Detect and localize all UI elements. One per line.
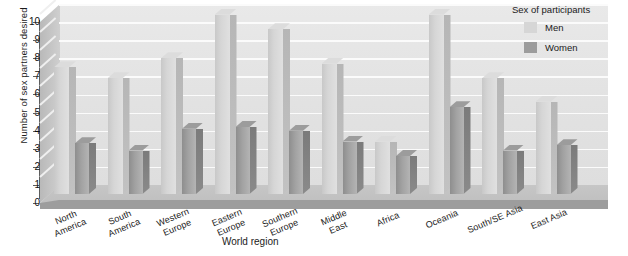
bar-men-7 xyxy=(429,15,444,194)
bar-group xyxy=(375,193,414,194)
y-tick-label-8: 8 xyxy=(16,53,40,63)
bar-side-face xyxy=(250,127,257,194)
bar-face xyxy=(75,143,89,194)
bar-face xyxy=(450,107,464,194)
bar-face xyxy=(503,151,517,194)
bar-side-face xyxy=(571,145,578,194)
bar-women-2 xyxy=(182,129,196,194)
y-tick-label-5: 5 xyxy=(16,108,40,118)
legend-label-women: Women xyxy=(545,42,578,53)
bar-group xyxy=(161,193,200,194)
bar-side-face xyxy=(410,156,417,194)
bar-face xyxy=(54,67,69,194)
legend: Sex of participants MenWomen xyxy=(512,4,626,62)
bar-men-2 xyxy=(161,58,176,194)
bar-face xyxy=(129,151,143,194)
bar-face xyxy=(215,15,230,194)
bar-face xyxy=(289,131,303,194)
bar-face xyxy=(557,145,571,194)
bar-group xyxy=(536,193,575,194)
y-tick-label-10: 10 xyxy=(16,17,40,27)
bar-face xyxy=(322,64,337,194)
bar-group xyxy=(54,193,93,194)
bar-face xyxy=(343,142,357,194)
bar-side-face xyxy=(517,151,524,194)
bar-face xyxy=(268,29,283,194)
legend-item-women: Women xyxy=(512,42,626,53)
bar-men-5 xyxy=(322,64,337,194)
bar-women-8 xyxy=(503,151,517,194)
bar-side-face xyxy=(143,151,150,194)
bar-face xyxy=(536,102,551,194)
bar-face xyxy=(396,156,410,194)
bar-group xyxy=(429,193,468,194)
bar-side-face xyxy=(89,143,96,194)
bar-side-face xyxy=(464,107,471,194)
legend-item-men: Men xyxy=(512,22,626,33)
bar-women-5 xyxy=(343,142,357,194)
y-tick-label-2: 2 xyxy=(16,162,40,172)
bar-chart: Number of sex partners desired 012345678… xyxy=(0,0,628,256)
legend-swatch-women xyxy=(524,42,537,53)
bar-men-4 xyxy=(268,29,283,194)
bar-group xyxy=(108,193,147,194)
y-axis-ticks: 012345678910 xyxy=(0,0,40,256)
legend-items: MenWomen xyxy=(512,22,626,53)
bar-side-face xyxy=(357,142,364,194)
bar-women-0 xyxy=(75,143,89,194)
bar-face xyxy=(161,58,176,194)
bar-men-1 xyxy=(108,78,123,194)
bar-group xyxy=(215,193,254,194)
x-axis-title: World region xyxy=(222,236,279,247)
bar-women-9 xyxy=(557,145,571,194)
bar-group xyxy=(268,193,307,194)
bar-women-7 xyxy=(450,107,464,194)
bar-women-4 xyxy=(289,131,303,194)
bar-face xyxy=(182,129,196,194)
bar-side-face xyxy=(303,131,310,194)
legend-title: Sex of participants xyxy=(512,4,626,15)
bar-women-1 xyxy=(129,151,143,194)
y-tick-label-9: 9 xyxy=(16,35,40,45)
bar-men-9 xyxy=(536,102,551,194)
y-tick-label-7: 7 xyxy=(16,71,40,81)
bar-women-3 xyxy=(236,127,250,194)
legend-label-men: Men xyxy=(545,22,563,33)
bar-face xyxy=(482,78,497,194)
bar-men-3 xyxy=(215,15,230,194)
bar-face xyxy=(375,142,390,194)
bar-women-6 xyxy=(396,156,410,194)
bar-side-face xyxy=(196,129,203,194)
bar-face xyxy=(108,78,123,194)
bar-group xyxy=(482,193,521,194)
bar-face xyxy=(236,127,250,194)
bar-group xyxy=(322,193,361,194)
bar-men-6 xyxy=(375,142,390,194)
y-tick-label-3: 3 xyxy=(16,144,40,154)
bar-face xyxy=(429,15,444,194)
legend-swatch-men xyxy=(524,22,537,33)
y-tick-label-6: 6 xyxy=(16,89,40,99)
y-tick-label-1: 1 xyxy=(16,180,40,190)
bar-men-8 xyxy=(482,78,497,194)
y-tick-label-0: 0 xyxy=(16,198,40,208)
y-tick-label-4: 4 xyxy=(16,126,40,136)
bar-men-0 xyxy=(54,67,69,194)
